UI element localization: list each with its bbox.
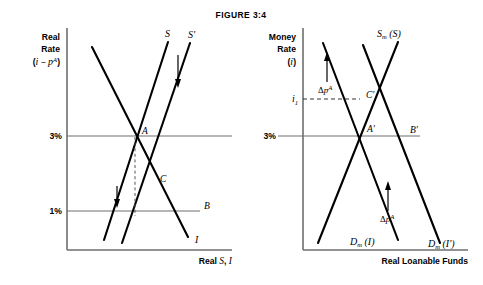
right-y-axis-caption-line2: Rate xyxy=(277,44,296,54)
right-point-label-C-prime: C' xyxy=(366,90,375,100)
right-Sm-paren: (S) xyxy=(387,28,402,40)
right-expr-close: ) xyxy=(293,57,296,67)
left-y-axis-caption-line2: Rate xyxy=(41,44,60,54)
right-Dm-Ip-paren: (I') xyxy=(440,238,455,250)
right-curve-label-Sm: Sm (S) xyxy=(377,28,402,40)
right-Dm-I-paren: (I) xyxy=(362,236,375,248)
figure-container: FIGURE 3:4 Real Rate (i − pA) 3% 1% I S … xyxy=(0,0,483,285)
left-x-axis-label-prefix: Real xyxy=(199,256,220,266)
left-curve-label-S-prime: S' xyxy=(188,29,196,40)
right-tick-label-3pct: 3% xyxy=(264,131,277,141)
figure-title: FIGURE 3:4 xyxy=(216,10,267,20)
left-curve-label-S: S xyxy=(165,28,170,39)
left-tick-label-1pct: 1% xyxy=(50,206,63,216)
right-y-axis-caption-line1: Money xyxy=(269,32,296,42)
left-point-label-C: C xyxy=(160,174,167,184)
right-point-label-B-prime: B' xyxy=(410,125,419,135)
left-point-label-A: A xyxy=(141,126,148,136)
right-curve-label-Dm-I: Dm (I) xyxy=(349,236,375,248)
left-point-label-B: B xyxy=(204,201,210,211)
left-x-axis-label: Real S, I xyxy=(199,256,233,266)
figure-svg: FIGURE 3:4 Real Rate (i − pA) 3% 1% I S … xyxy=(0,0,483,285)
right-curve-label-Dm-Iprime: Dm (I') xyxy=(427,238,455,250)
right-y-axis-caption-expr: (i) xyxy=(287,56,296,67)
left-curve-label-I: I xyxy=(194,234,199,245)
expr-close: ) xyxy=(57,57,60,67)
right-tick-i1-sub: 1 xyxy=(295,99,298,106)
figure-background xyxy=(0,0,483,285)
right-point-label-A-prime: A' xyxy=(366,124,376,134)
left-tick-label-3pct: 3% xyxy=(50,131,63,141)
expr-minus: − xyxy=(38,57,48,67)
left-y-axis-caption-line1: Real xyxy=(42,32,60,42)
right-x-axis-label: Real Loanable Funds xyxy=(382,256,469,266)
